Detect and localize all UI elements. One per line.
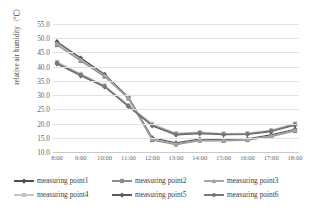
x-axis-tick-label: 11:00 [121,154,136,161]
x-axis-tick-label: 14:00 [192,154,207,161]
legend-marker-icon [204,190,224,199]
y-axis-tick-label: 25.0 [37,105,50,114]
legend-label: measuring point3 [227,176,279,185]
x-axis-tick-label: 10:00 [97,154,112,161]
gridline [53,52,299,53]
gridline [53,67,299,68]
data-point [126,104,130,108]
legend-item-5[interactable]: measuring point5 [112,190,187,199]
humidity-line-chart: relative air humidity（℃） 10.015.020.025.… [0,0,314,208]
x-axis-tick-label: 15:00 [216,154,231,161]
x-axis-tick-label: 9:00 [75,154,87,161]
legend-row-1: measuring point1measuring point2measurin… [14,176,304,190]
legend-label: measuring point4 [37,190,89,199]
x-axis-tick-label: 13:00 [168,154,183,161]
legend-item-3[interactable]: measuring point3 [204,176,279,185]
chart-legend: measuring point1measuring point2measurin… [14,176,304,206]
y-axis-tick-label: 40.0 [37,62,50,71]
x-axis-line [53,152,299,153]
x-axis-tick-label: 17:00 [264,154,279,161]
x-axis-tick-label: 12:00 [145,154,160,161]
gridline [53,38,299,39]
series-line [57,43,295,143]
series-3 [55,41,298,146]
y-axis-tick-label: 20.0 [37,119,50,128]
series-layer [53,24,299,152]
x-axis-tick-label: 18:00 [287,154,302,161]
series-1 [55,39,298,146]
x-axis-tick-labels: 8:009:0010:0011:0012:0013:0014:0015:0016… [53,154,299,168]
data-point [174,132,178,136]
legend-marker-icon [14,176,34,185]
data-point [245,132,249,136]
y-axis-tick-label: 10.0 [37,148,50,157]
legend-marker-icon [204,176,224,185]
gridline [53,138,299,139]
data-point [79,73,83,77]
x-axis-tick-label: 8:00 [51,154,63,161]
legend-item-4[interactable]: measuring point4 [14,190,89,199]
legend-item-6[interactable]: measuring point6 [204,190,279,199]
legend-marker-icon [14,190,34,199]
legend-item-1[interactable]: measuring point1 [14,176,89,185]
y-axis-tick-label: 55.0 [37,20,50,29]
data-point [103,84,107,88]
legend-label: measuring point6 [227,190,279,199]
data-point [198,131,202,135]
y-axis-tick-label: 15.0 [37,133,50,142]
data-point [55,61,59,65]
y-axis-tick-label: 50.0 [37,34,50,43]
plot-area [53,24,299,152]
series-5 [55,61,298,137]
gridline [53,95,299,96]
gridline [53,81,299,82]
legend-item-2[interactable]: measuring point2 [112,176,187,185]
legend-marker-icon [112,190,132,199]
data-point [269,129,273,133]
legend-marker-icon [112,176,132,185]
y-axis-tick-label: 35.0 [37,76,50,85]
y-axis-tick-label: 30.0 [37,91,50,100]
legend-row-2: measuring point4measuring point5measurin… [14,190,304,204]
gridline [53,109,299,110]
gridline [53,124,299,125]
gridline [53,24,299,25]
legend-label: measuring point5 [135,190,187,199]
legend-label: measuring point2 [135,176,187,185]
y-axis-tick-label: 45.0 [37,48,50,57]
legend-label: measuring point1 [37,176,89,185]
series-line [57,42,295,143]
series-6 [55,61,297,136]
data-point [222,132,226,136]
x-axis-tick-label: 16:00 [240,154,255,161]
